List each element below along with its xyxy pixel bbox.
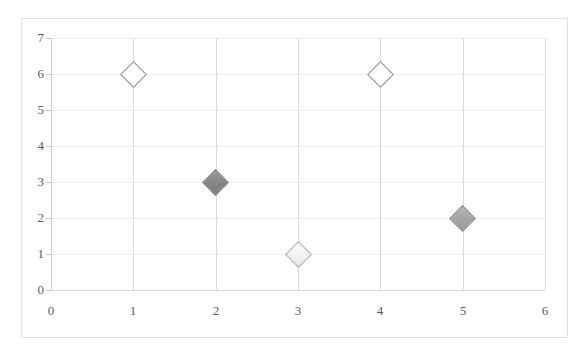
y-axis-tick-label: 1 (22, 247, 44, 260)
y-axis-tick-mark (46, 38, 51, 39)
y-axis-tick-mark (46, 146, 51, 147)
gridline-vertical (463, 38, 464, 290)
y-axis-tick-mark (46, 254, 51, 255)
x-axis-tick-label: 1 (118, 304, 148, 317)
diamond-icon (449, 205, 476, 232)
x-axis-tick-label: 2 (201, 304, 231, 317)
diamond-icon (367, 61, 394, 88)
gridline-vertical (545, 38, 546, 290)
plot-area (51, 38, 545, 290)
y-axis-tick-label: 5 (22, 103, 44, 116)
x-axis-tick-label: 6 (530, 304, 560, 317)
x-axis-tick-label: 3 (283, 304, 313, 317)
diamond-icon (202, 169, 229, 196)
y-axis-tick-label: 4 (22, 139, 44, 152)
y-axis-tick-mark (46, 182, 51, 183)
y-axis-tick-label: 0 (22, 283, 44, 296)
data-point-marker[interactable] (201, 167, 231, 197)
x-axis-tick-label: 4 (365, 304, 395, 317)
y-axis-tick-labels: 01234567 (10, 0, 44, 351)
y-axis-tick-mark (46, 218, 51, 219)
y-axis-tick-label: 3 (22, 175, 44, 188)
diamond-icon (120, 61, 147, 88)
gridline-vertical (216, 38, 217, 290)
x-axis-tick-label: 0 (36, 304, 66, 317)
y-axis-tick-label: 7 (22, 31, 44, 44)
x-axis-line (51, 290, 545, 291)
diamond-icon (285, 241, 312, 268)
y-axis-line (51, 38, 52, 291)
y-axis-tick-mark (46, 290, 51, 291)
data-point-marker[interactable] (365, 59, 395, 89)
x-axis-tick-label: 5 (448, 304, 478, 317)
y-axis-tick-label: 6 (22, 67, 44, 80)
data-point-marker[interactable] (448, 203, 478, 233)
y-axis-tick-mark (46, 74, 51, 75)
y-axis-tick-mark (46, 110, 51, 111)
data-point-marker[interactable] (283, 239, 313, 269)
data-point-marker[interactable] (118, 59, 148, 89)
scatter-chart: 01234567 0123456 (0, 0, 588, 351)
y-axis-tick-label: 2 (22, 211, 44, 224)
